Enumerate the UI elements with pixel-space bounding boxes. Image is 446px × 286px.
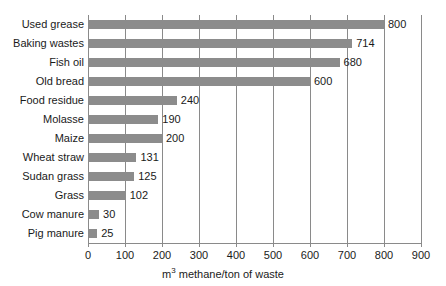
tick-mark-500 bbox=[273, 243, 274, 247]
plot-area: Used grease800Baking wastes714Fish oil68… bbox=[88, 15, 421, 243]
bar-value-label: 30 bbox=[103, 205, 115, 224]
x-tick-label: 100 bbox=[116, 249, 134, 261]
x-tick-label: 300 bbox=[190, 249, 208, 261]
category-label: Used grease bbox=[22, 15, 84, 34]
category-label: Wheat straw bbox=[23, 148, 84, 167]
category-label: Pig manure bbox=[28, 224, 84, 243]
bar-value-label: 714 bbox=[356, 34, 374, 53]
bar-value-label: 190 bbox=[162, 110, 180, 129]
category-label: Cow manure bbox=[22, 205, 84, 224]
bar bbox=[88, 229, 97, 238]
x-axis-line bbox=[88, 243, 422, 244]
tick-mark-800 bbox=[384, 243, 385, 247]
category-label: Sudan grass bbox=[22, 167, 84, 186]
bar-row: Food residue240 bbox=[88, 91, 421, 110]
bar-value-label: 200 bbox=[166, 129, 184, 148]
x-tick-label: 200 bbox=[153, 249, 171, 261]
bar-value-label: 131 bbox=[140, 148, 158, 167]
category-label: Maize bbox=[55, 129, 84, 148]
bar bbox=[88, 115, 158, 124]
tick-mark-100 bbox=[125, 243, 126, 247]
x-axis-title: m3 methane/ton of waste bbox=[0, 266, 446, 280]
tick-mark-0 bbox=[88, 243, 89, 247]
tick-mark-700 bbox=[347, 243, 348, 247]
bar bbox=[88, 20, 384, 29]
x-axis-unit-rest: methane/ton of waste bbox=[176, 268, 284, 280]
tick-mark-300 bbox=[199, 243, 200, 247]
x-tick-label: 0 bbox=[85, 249, 91, 261]
bar bbox=[88, 210, 99, 219]
x-axis-unit-base: m bbox=[162, 268, 171, 280]
gridline-900 bbox=[421, 15, 422, 243]
bar-value-label: 680 bbox=[344, 53, 362, 72]
bar bbox=[88, 77, 310, 86]
bar-row: Old bread600 bbox=[88, 72, 421, 91]
category-label: Old bread bbox=[36, 72, 84, 91]
bar-row: Molasse190 bbox=[88, 110, 421, 129]
tick-mark-900 bbox=[421, 243, 422, 247]
bar-value-label: 25 bbox=[101, 224, 113, 243]
category-label: Grass bbox=[55, 186, 84, 205]
x-tick-label: 900 bbox=[412, 249, 430, 261]
bar-row: Cow manure30 bbox=[88, 205, 421, 224]
bar bbox=[88, 96, 177, 105]
bar-value-label: 102 bbox=[130, 186, 148, 205]
bar-row: Grass102 bbox=[88, 186, 421, 205]
bar-row: Baking wastes714 bbox=[88, 34, 421, 53]
bar bbox=[88, 191, 126, 200]
x-tick-label: 400 bbox=[227, 249, 245, 261]
bar-value-label: 240 bbox=[181, 91, 199, 110]
bar-row: Used grease800 bbox=[88, 15, 421, 34]
bar bbox=[88, 134, 162, 143]
bar-row: Pig manure25 bbox=[88, 224, 421, 243]
bar-value-label: 600 bbox=[314, 72, 332, 91]
category-label: Molasse bbox=[43, 110, 84, 129]
tick-mark-600 bbox=[310, 243, 311, 247]
bar-row: Sudan grass125 bbox=[88, 167, 421, 186]
bar bbox=[88, 153, 136, 162]
bar-value-label: 800 bbox=[388, 15, 406, 34]
x-tick-label: 800 bbox=[375, 249, 393, 261]
bar bbox=[88, 39, 352, 48]
x-tick-label: 600 bbox=[301, 249, 319, 261]
category-label: Food residue bbox=[20, 91, 84, 110]
x-tick-label: 700 bbox=[338, 249, 356, 261]
tick-mark-400 bbox=[236, 243, 237, 247]
bar bbox=[88, 58, 340, 67]
x-tick-label: 500 bbox=[264, 249, 282, 261]
category-label: Fish oil bbox=[49, 53, 84, 72]
bar-row: Maize200 bbox=[88, 129, 421, 148]
category-label: Baking wastes bbox=[13, 34, 84, 53]
tick-mark-200 bbox=[162, 243, 163, 247]
bar-row: Wheat straw131 bbox=[88, 148, 421, 167]
bar-value-label: 125 bbox=[138, 167, 156, 186]
bar bbox=[88, 172, 134, 181]
bar-chart: Used grease800Baking wastes714Fish oil68… bbox=[0, 0, 446, 286]
bar-row: Fish oil680 bbox=[88, 53, 421, 72]
